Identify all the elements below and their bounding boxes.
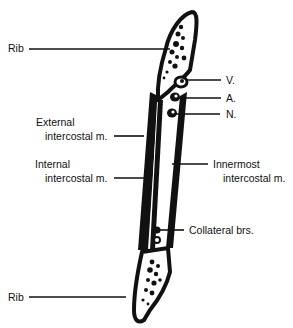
intercostal-muscles: [138, 92, 187, 250]
label-external-line2: intercostal m.: [45, 130, 107, 142]
intercostal-diagram: Rib V. A. N. External intercostal m. Int…: [0, 0, 293, 328]
label-innermost-line2: intercostal m.: [223, 172, 285, 184]
label-rib-bottom: Rib: [8, 291, 24, 303]
label-collateral: Collateral brs.: [189, 224, 254, 236]
label-innermost-line1: Innermost: [213, 158, 260, 170]
lower-rib: [134, 248, 170, 322]
label-internal-line2: intercostal m.: [45, 172, 107, 184]
label-external-line1: External: [36, 116, 75, 128]
label-rib-top: Rib: [8, 42, 24, 54]
label-internal-line1: Internal: [35, 158, 70, 170]
label-artery: A.: [226, 92, 236, 104]
label-nerve: N.: [226, 108, 237, 120]
label-vein: V.: [226, 74, 235, 86]
